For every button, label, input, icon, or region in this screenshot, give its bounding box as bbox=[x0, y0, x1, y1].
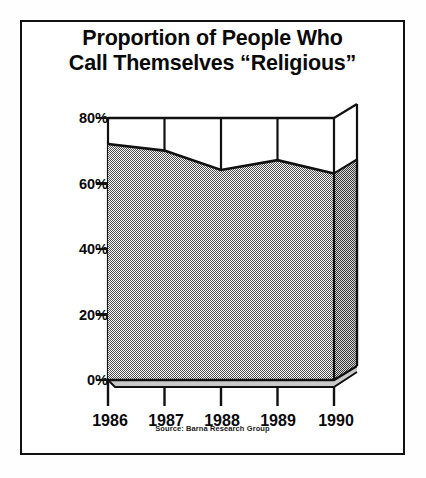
chart-area: 80% 60% 40% 20% 0% 1986 1987 1988 1989 1… bbox=[20, 20, 405, 455]
source-note: Source: Barna Research Group bbox=[20, 424, 405, 433]
figure-page: Proportion of People Who Call Themselves… bbox=[0, 0, 426, 478]
x-axis: 1986 1987 1988 1989 1990 bbox=[20, 20, 405, 455]
